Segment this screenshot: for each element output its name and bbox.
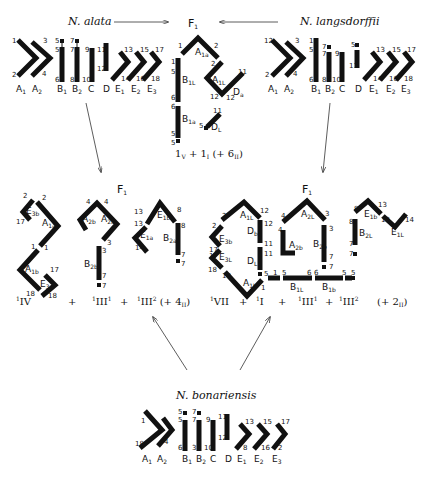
formula-right: 1VII+1I+1III1+1III2(+ 2II): [210, 295, 408, 308]
species-title-bonariensis: N. bonariensis: [175, 389, 257, 402]
svg-text:B2b: B2b: [84, 259, 98, 270]
svg-text:B1a: B1a: [182, 114, 196, 125]
svg-text:7: 7: [102, 272, 106, 280]
svg-text:F1: F1: [302, 183, 312, 196]
svg-text:E2: E2: [254, 454, 264, 465]
svg-text:5: 5: [351, 41, 355, 49]
svg-text:10: 10: [204, 444, 213, 452]
svg-text:12: 12: [260, 207, 269, 215]
svg-text:17: 17: [16, 218, 25, 226]
svg-text:9: 9: [85, 46, 89, 54]
svg-text:6: 6: [171, 94, 176, 102]
species-title-langsdorffii: N. langsdorffii: [299, 15, 380, 28]
svg-text:A1L: A1L: [212, 75, 226, 86]
svg-text:18: 18: [135, 440, 144, 448]
svg-text:DL: DL: [247, 256, 258, 267]
svg-text:5: 5: [351, 269, 355, 277]
svg-text:9: 9: [335, 50, 339, 58]
svg-text:A1: A1: [268, 84, 278, 95]
svg-text:17: 17: [407, 46, 416, 54]
svg-text:B1: B1: [182, 454, 192, 465]
svg-text:1: 1: [261, 284, 265, 292]
svg-text:B1L: B1L: [290, 282, 304, 293]
svg-text:7: 7: [192, 416, 196, 424]
svg-text:15: 15: [263, 418, 272, 426]
svg-text:3: 3: [192, 444, 196, 452]
svg-text:5: 5: [171, 68, 175, 76]
svg-text:2: 2: [214, 42, 218, 50]
svg-text:6: 6: [307, 269, 312, 277]
f1-title-top: F1: [188, 17, 198, 30]
svg-text:C: C: [339, 84, 345, 94]
svg-text:6: 6: [309, 76, 314, 84]
label-B1: B1: [57, 84, 67, 95]
svg-text:12: 12: [264, 220, 273, 228]
svg-text:5: 5: [171, 139, 175, 147]
svg-text:B2a: B2a: [163, 233, 177, 244]
svg-text:13: 13: [381, 216, 390, 224]
svg-text:7: 7: [181, 260, 185, 268]
arrow-alata-to-f1-left: [86, 103, 101, 172]
svg-text:4: 4: [86, 198, 91, 206]
svg-text:13: 13: [378, 201, 387, 209]
svg-text:D: D: [355, 84, 362, 94]
hybrid-right: F1 212 A1L 2 E3b 1717 E3L 1818 12 Db 111…: [208, 183, 414, 308]
svg-text:A2: A2: [157, 454, 167, 465]
svg-text:11: 11: [349, 62, 358, 70]
svg-text:2: 2: [212, 222, 216, 230]
svg-text:14: 14: [121, 75, 130, 83]
svg-text:3: 3: [102, 247, 106, 255]
svg-text:5: 5: [199, 122, 203, 130]
svg-text:5: 5: [342, 269, 346, 277]
svg-text:4: 4: [164, 438, 169, 446]
svg-text:6: 6: [314, 269, 319, 277]
svg-text:E1: E1: [237, 454, 247, 465]
svg-text:12: 12: [218, 434, 227, 442]
svg-text:2: 2: [23, 192, 27, 200]
svg-text:7: 7: [329, 253, 333, 261]
label-E1: E1: [115, 84, 125, 95]
svg-text:8: 8: [181, 222, 185, 230]
svg-text:2: 2: [278, 444, 282, 452]
svg-text:11: 11: [218, 413, 227, 421]
svg-text:6: 6: [171, 103, 176, 111]
svg-text:3: 3: [295, 37, 299, 45]
svg-text:A1b: A1b: [25, 264, 39, 275]
svg-text:8: 8: [70, 76, 74, 84]
svg-text:14: 14: [405, 216, 414, 224]
svg-text:7: 7: [349, 240, 353, 248]
svg-text:14: 14: [135, 244, 144, 252]
svg-text:7: 7: [192, 408, 196, 416]
svg-text:8: 8: [322, 76, 326, 84]
svg-text:E3L: E3L: [219, 252, 233, 263]
svg-text:9: 9: [206, 416, 210, 424]
svg-text:18: 18: [151, 75, 160, 83]
svg-text:A1b: A1b: [243, 278, 257, 289]
svg-text:5: 5: [178, 408, 182, 416]
svg-text:12: 12: [210, 93, 219, 101]
svg-text:13: 13: [124, 46, 133, 54]
svg-text:Db: Db: [247, 226, 258, 237]
svg-text:1: 1: [309, 37, 313, 45]
label-A2: A2: [32, 84, 42, 95]
svg-text:A2b: A2b: [82, 214, 96, 225]
svg-text:1: 1: [273, 269, 277, 277]
svg-text:A2b: A2b: [289, 240, 303, 251]
svg-text:13: 13: [134, 208, 143, 216]
svg-text:8: 8: [177, 206, 181, 214]
label-E3: E3: [147, 84, 157, 95]
svg-text:E3: E3: [401, 84, 411, 95]
svg-text:16: 16: [389, 75, 398, 83]
svg-text:5: 5: [171, 130, 175, 138]
svg-text:6: 6: [178, 444, 183, 452]
svg-text:18: 18: [208, 266, 217, 274]
svg-text:4: 4: [104, 198, 109, 206]
svg-text:8: 8: [243, 444, 247, 452]
svg-text:E3b: E3b: [26, 206, 40, 217]
svg-text:18: 18: [404, 75, 413, 83]
svg-text:E2: E2: [386, 84, 396, 95]
svg-text:4: 4: [42, 70, 47, 78]
svg-text:15: 15: [392, 46, 401, 54]
svg-text:7: 7: [102, 282, 106, 290]
svg-text:18: 18: [48, 292, 57, 300]
